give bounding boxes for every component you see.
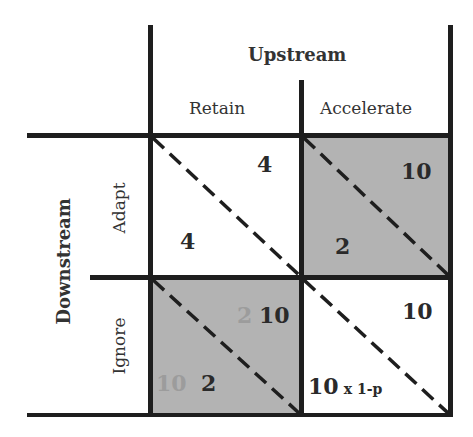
row-player-label: Downstream — [53, 225, 74, 325]
cell-adapt-accelerate: 10 2 — [304, 138, 448, 275]
downstream-payoff: 2 — [335, 235, 350, 257]
row-label-adapt: Adapt — [109, 173, 129, 243]
downstream-ghost-payoff: 10 — [156, 372, 187, 394]
bottom-horizontal-line — [27, 413, 453, 417]
probability-factor: x 1-p — [344, 381, 383, 397]
cell-adapt-retain: 4 4 — [153, 138, 299, 275]
cell-ignore-accelerate: 10 10 x 1-p — [304, 280, 448, 413]
downstream-payoff: 2 — [201, 372, 216, 394]
upstream-ghost-payoff: 2 — [237, 304, 252, 326]
downstream-payoff: 4 — [180, 230, 195, 252]
upstream-payoff: 4 — [257, 153, 272, 175]
column-label-accelerate: Accelerate — [320, 98, 412, 118]
downstream-payoff-expression: 10 x 1-p — [308, 375, 384, 398]
cell-ignore-retain: 2 10 10 2 — [153, 280, 299, 413]
upstream-payoff: 10 — [402, 300, 433, 322]
row-label-ignore: Ignore — [109, 311, 129, 381]
column-player-label: Upstream — [248, 44, 346, 65]
upstream-payoff: 10 — [401, 160, 432, 182]
upstream-payoff: 10 — [259, 304, 290, 326]
right-vertical-line — [448, 25, 453, 417]
downstream-payoff: 10 — [308, 373, 339, 399]
column-label-retain: Retain — [189, 98, 245, 118]
dashed-diagonal — [153, 138, 299, 275]
